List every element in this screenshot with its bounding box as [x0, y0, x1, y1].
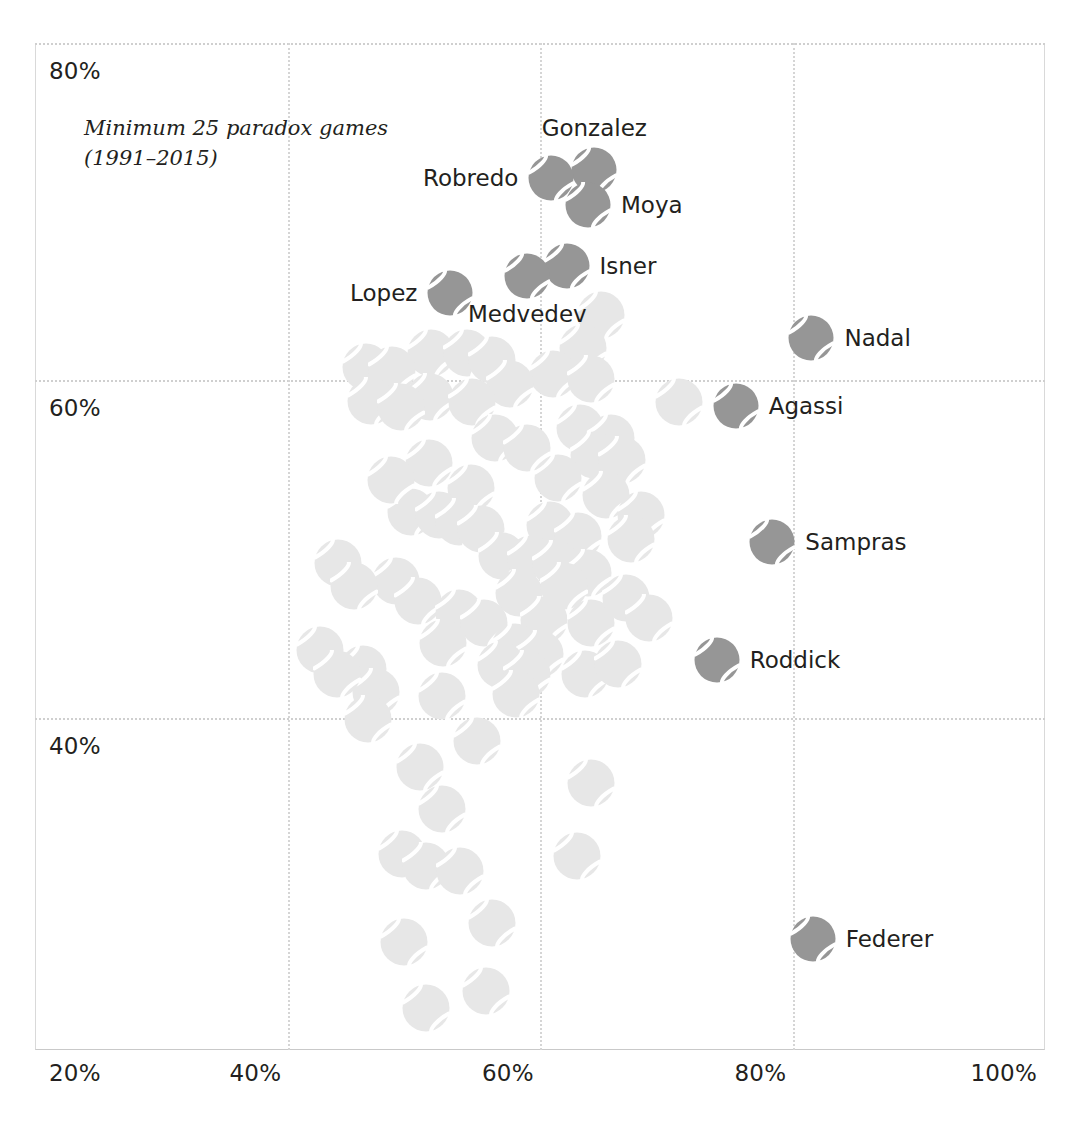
data-point-unlabeled [503, 424, 551, 472]
point-label-sampras: Sampras [805, 529, 906, 555]
point-label-agassi: Agassi [769, 393, 844, 419]
point-label-roddick: Roddick [750, 647, 841, 673]
data-point-unlabeled [567, 355, 615, 403]
chart-annotation: Minimum 25 paradox games (1991–2015) [84, 113, 388, 173]
data-point-roddick [694, 637, 740, 683]
data-point-medvedev [504, 253, 550, 299]
data-point-unlabeled [380, 918, 428, 966]
x-axis-tick-label: 60% [482, 1060, 534, 1086]
data-point-unlabeled [418, 785, 466, 833]
data-point-unlabeled [418, 672, 466, 720]
data-point-unlabeled [367, 456, 415, 504]
point-label-isner: Isner [600, 253, 657, 279]
data-point-unlabeled [344, 695, 392, 743]
point-label-robredo: Robredo [423, 165, 518, 191]
data-point-nadal [788, 315, 834, 361]
data-point-unlabeled [330, 562, 378, 610]
point-label-gonzalez: Gonzalez [542, 115, 647, 141]
data-point-sampras [749, 519, 795, 565]
data-point-unlabeled [567, 759, 615, 807]
data-point-unlabeled [396, 743, 444, 791]
data-point-unlabeled [468, 899, 516, 947]
data-point-unlabeled [436, 847, 484, 895]
x-axis-tick-label: 20% [49, 1060, 101, 1086]
data-point-unlabeled [377, 383, 425, 431]
data-point-unlabeled [313, 650, 361, 698]
y-axis-tick-label: 60% [49, 395, 101, 421]
point-label-medvedev: Medvedev [468, 301, 587, 327]
data-point-lopez [427, 270, 473, 316]
x-axis-tick-label: 80% [735, 1060, 787, 1086]
gridline-vertical [288, 43, 290, 1050]
data-point-unlabeled [462, 967, 510, 1015]
data-point-unlabeled [594, 640, 642, 688]
data-point-unlabeled [607, 515, 655, 563]
point-label-federer: Federer [846, 926, 933, 952]
point-label-nadal: Nadal [844, 325, 910, 351]
data-point-unlabeled [419, 619, 467, 667]
data-point-unlabeled [492, 670, 540, 718]
x-axis-tick-label: 40% [230, 1060, 282, 1086]
data-point-unlabeled [540, 562, 588, 610]
y-axis-tick-label: 40% [49, 733, 101, 759]
data-point-agassi [713, 383, 759, 429]
data-point-unlabeled [402, 984, 450, 1032]
data-point-robredo [528, 155, 574, 201]
point-label-lopez: Lopez [350, 280, 417, 306]
data-point-isner [544, 243, 590, 289]
data-point-unlabeled [655, 378, 703, 426]
point-label-moya: Moya [621, 192, 683, 218]
data-point-unlabeled [453, 717, 501, 765]
data-point-unlabeled [625, 594, 673, 642]
data-point-unlabeled [553, 832, 601, 880]
x-axis-tick-label: 100% [970, 1060, 1037, 1086]
chart-canvas: 80%60%40%20%40%60%80%100% Minimum 25 par… [0, 0, 1079, 1135]
data-point-federer [790, 916, 836, 962]
y-axis-tick-label: 80% [49, 58, 101, 84]
